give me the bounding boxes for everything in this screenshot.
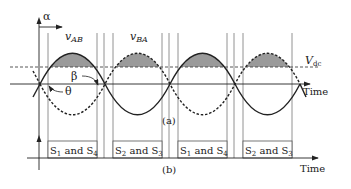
vba-label: vBA xyxy=(130,30,148,44)
panel-b-label: (b) xyxy=(162,164,176,175)
time-label-b: Time xyxy=(300,163,325,174)
switch-box-2: S2 and S3 xyxy=(113,141,163,158)
vab-label: vAB xyxy=(65,30,83,44)
switch-box-3: S1 and S4 xyxy=(178,141,228,158)
theta-pointer xyxy=(49,86,63,92)
theta-label: θ xyxy=(65,85,72,98)
switching-boundaries xyxy=(48,33,292,158)
alpha-label: α xyxy=(43,10,51,23)
switch-box-4: S2 and S3 xyxy=(243,141,293,158)
shaded-regions xyxy=(40,53,300,84)
panel-a-label: (a) xyxy=(162,115,176,126)
time-label-a: Time xyxy=(303,86,328,97)
switch-box-1: S1 and S4 xyxy=(48,141,98,158)
vdc-label: Vdc xyxy=(305,54,321,68)
inverter-switching-diagram: α β θ vAB vBA Vdc Time (a) S1 and S4 S2 … xyxy=(0,0,351,189)
beta-label: β xyxy=(71,70,77,83)
